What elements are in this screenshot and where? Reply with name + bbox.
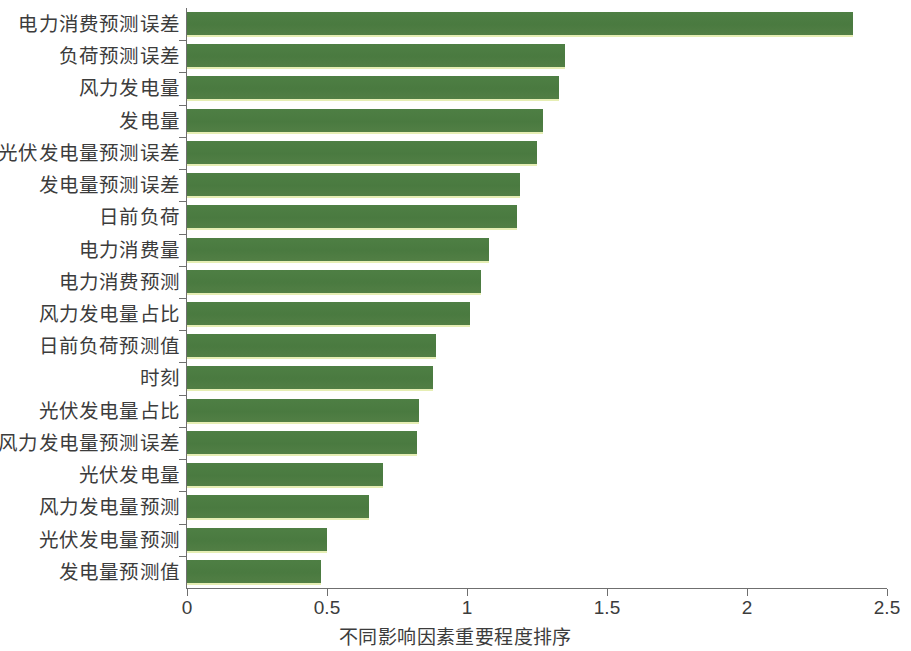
bar-row: 负荷预测误差: [0, 40, 911, 72]
y-axis-tick: [179, 330, 187, 331]
bar-row: 日前负荷: [0, 201, 911, 233]
bar: [187, 238, 489, 263]
bar-category-label: 风力发电量预测: [39, 491, 180, 523]
x-axis-tick: [187, 589, 188, 596]
bar-category-label: 日前负荷预测值: [39, 330, 180, 362]
bar: [187, 495, 369, 520]
bar-category-label: 光伏发电量: [79, 459, 180, 491]
bar-row: 风力发电量预测: [0, 491, 911, 523]
y-axis-tick: [179, 459, 187, 460]
bar-row: 电力消费预测: [0, 266, 911, 298]
x-axis-tick-label: 1.5: [594, 597, 620, 619]
y-axis-tick: [179, 201, 187, 202]
x-axis-tick: [467, 589, 468, 596]
x-axis-tick: [607, 589, 608, 596]
x-axis-title: 不同影响因素重要程度排序: [0, 622, 911, 649]
bar-row: 光伏发电量: [0, 459, 911, 491]
bar-row: 电力消费预测误差: [0, 8, 911, 40]
y-axis-tick: [179, 298, 187, 299]
x-axis-tick-label: 0: [182, 597, 193, 619]
x-axis-line: [186, 588, 887, 589]
bar-category-label: 光伏发电量预测误差: [0, 137, 180, 169]
x-axis-tick-label: 2: [742, 597, 753, 619]
bar-category-label: 风力发电量占比: [39, 298, 180, 330]
bar: [187, 12, 853, 37]
bar-category-label: 发电量预测误差: [39, 169, 180, 201]
bar: [187, 205, 517, 230]
bar-row: 风力发电量预测误差: [0, 427, 911, 459]
bar: [187, 528, 327, 553]
y-axis-tick: [179, 362, 187, 363]
bar-row: 发电量预测误差: [0, 169, 911, 201]
bar: [187, 366, 433, 391]
bar-category-label: 风力发电量预测误差: [0, 427, 180, 459]
y-axis-tick: [179, 234, 187, 235]
bar: [187, 334, 436, 359]
bar: [187, 431, 417, 456]
bar-category-label: 光伏发电量预测: [39, 524, 180, 556]
bar-category-label: 日前负荷: [99, 201, 180, 233]
y-axis-tick: [179, 395, 187, 396]
y-axis-tick: [179, 491, 187, 492]
x-axis-tick: [887, 589, 888, 596]
bar-category-label: 负荷预测误差: [59, 40, 180, 72]
feature-importance-bar-chart: 电力消费预测误差负荷预测误差风力发电量发电量光伏发电量预测误差发电量预测误差日前…: [0, 0, 911, 651]
bar-row: 光伏发电量预测: [0, 524, 911, 556]
x-axis-tick-label: 0.5: [314, 597, 340, 619]
bar: [187, 399, 419, 424]
y-axis-tick: [179, 72, 187, 73]
bar-row: 风力发电量占比: [0, 298, 911, 330]
bar: [187, 560, 321, 585]
y-axis-tick: [179, 266, 187, 267]
bar-category-label: 光伏发电量占比: [39, 395, 180, 427]
bar-row: 光伏发电量预测误差: [0, 137, 911, 169]
y-axis-tick: [179, 40, 187, 41]
bar-row: 时刻: [0, 362, 911, 394]
bar-rows-container: 电力消费预测误差负荷预测误差风力发电量发电量光伏发电量预测误差发电量预测误差日前…: [0, 8, 911, 588]
bar-row: 发电量预测值: [0, 556, 911, 588]
bar: [187, 109, 543, 134]
bar-category-label: 电力消费预测误差: [18, 8, 180, 40]
x-axis-tick-label: 1: [462, 597, 473, 619]
bar-row: 日前负荷预测值: [0, 330, 911, 362]
y-axis-tick: [179, 169, 187, 170]
y-axis-tick: [179, 105, 187, 106]
bar-category-label: 发电量: [119, 105, 180, 137]
bar: [187, 76, 559, 101]
bar: [187, 302, 470, 327]
y-axis-tick: [179, 427, 187, 428]
bar: [187, 270, 481, 295]
bar: [187, 173, 520, 198]
x-axis-tick-label: 2.5: [874, 597, 900, 619]
bar-category-label: 电力消费预测: [59, 266, 180, 298]
bar-row: 电力消费量: [0, 234, 911, 266]
bar-category-label: 电力消费量: [79, 234, 180, 266]
bar-category-label: 发电量预测值: [59, 556, 180, 588]
y-axis-tick: [179, 556, 187, 557]
x-axis-tick: [747, 589, 748, 596]
bar: [187, 44, 565, 69]
bar-category-label: 风力发电量: [79, 72, 180, 104]
bar: [187, 463, 383, 488]
bar-row: 光伏发电量占比: [0, 395, 911, 427]
bar-category-label: 时刻: [140, 362, 180, 394]
y-axis-tick: [179, 524, 187, 525]
x-axis-tick: [327, 589, 328, 596]
y-axis-tick: [179, 137, 187, 138]
bar-row: 发电量: [0, 105, 911, 137]
bar: [187, 141, 537, 166]
bar-row: 风力发电量: [0, 72, 911, 104]
